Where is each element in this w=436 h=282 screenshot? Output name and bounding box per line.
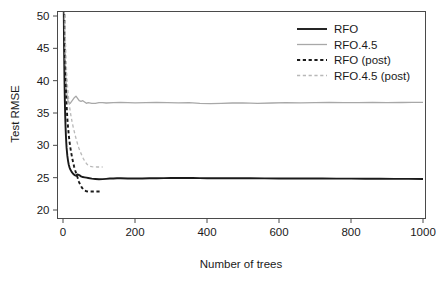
chart-legend: RFORFO.4.5RFO (post)RFO.4.5 (post) xyxy=(297,23,410,81)
x-tick-label: 800 xyxy=(341,226,360,238)
x-axis-title: Number of trees xyxy=(200,258,283,270)
legend-label-rfo-post: RFO (post) xyxy=(334,54,391,66)
y-tick-label: 30 xyxy=(37,139,50,151)
y-tick-label: 45 xyxy=(37,42,50,54)
x-axis-ticks: 02004006008001000 xyxy=(60,219,436,238)
x-tick-label: 1000 xyxy=(410,226,436,238)
y-tick-label: 40 xyxy=(37,75,50,87)
y-tick-label: 20 xyxy=(37,204,50,216)
chart-figure: 20253035404550 02004006008001000 RFORFO.… xyxy=(0,0,436,282)
series-line-rfo-4-5 xyxy=(63,0,423,104)
legend-label-rfo-4-5: RFO.4.5 xyxy=(334,39,377,51)
x-tick-label: 400 xyxy=(197,226,216,238)
y-axis-ticks: 20253035404550 xyxy=(37,10,58,216)
y-tick-label: 25 xyxy=(37,172,50,184)
series-line-rfo xyxy=(63,0,423,179)
legend-label-rfo: RFO xyxy=(334,23,358,35)
y-axis-title: Test RMSE xyxy=(9,85,21,143)
x-tick-label: 600 xyxy=(269,226,288,238)
chart-plot-area: 20253035404550 02004006008001000 RFORFO.… xyxy=(0,0,436,282)
data-series-group xyxy=(63,0,423,192)
x-tick-label: 200 xyxy=(125,226,144,238)
y-tick-label: 35 xyxy=(37,107,50,119)
x-tick-label: 0 xyxy=(60,226,66,238)
y-tick-label: 50 xyxy=(37,10,50,22)
legend-label-rfo-4-5-post: RFO.4.5 (post) xyxy=(334,70,410,82)
